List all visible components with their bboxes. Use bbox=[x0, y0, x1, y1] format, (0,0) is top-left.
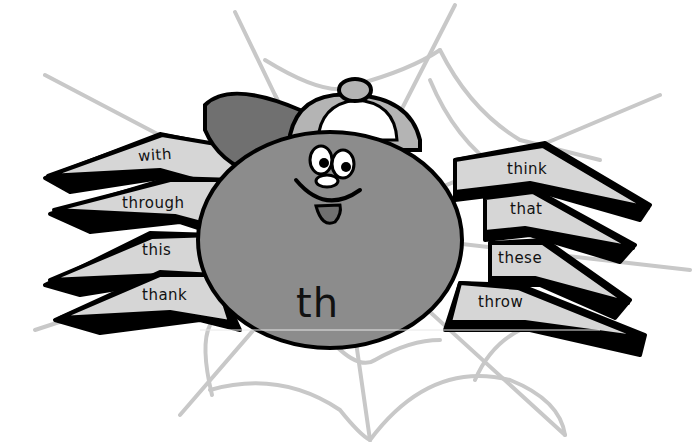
right-legs bbox=[445, 143, 650, 355]
cap-button bbox=[339, 79, 371, 101]
leg-word-this: this bbox=[142, 241, 171, 259]
leg-word-through: through bbox=[122, 194, 184, 212]
leg-word-throw: throw bbox=[478, 293, 523, 311]
leg-word-thank: thank bbox=[142, 286, 187, 304]
leg-word-these: these bbox=[498, 249, 542, 267]
leg-word-that: that bbox=[510, 200, 542, 218]
leg-word-think: think bbox=[507, 160, 547, 178]
nose bbox=[316, 175, 338, 187]
spider-illustration: with through this thank think that these… bbox=[0, 0, 694, 443]
spider-drawing bbox=[0, 0, 694, 443]
center-label-th: th bbox=[296, 280, 339, 326]
leg-word-with: with bbox=[137, 145, 172, 165]
